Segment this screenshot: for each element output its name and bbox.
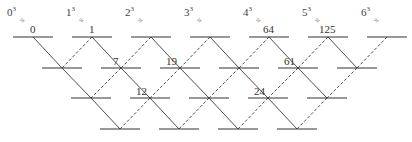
connector-dashed [268, 68, 298, 98]
cube-label: 53 [302, 5, 311, 18]
connector-dashed [238, 98, 268, 129]
node-value: 64 [263, 23, 274, 35]
cube-label: 23 [125, 5, 134, 18]
cube-label: 43 [243, 5, 252, 18]
connector-dashed [180, 37, 210, 68]
connector-dashed [297, 98, 327, 129]
cube-label: 13 [66, 5, 75, 18]
connector-dashed [239, 37, 269, 68]
connector-solid [33, 37, 62, 68]
connector-solid [150, 98, 179, 129]
connector-solid [298, 68, 327, 98]
connector-solid [91, 98, 120, 129]
node-value: 0 [30, 23, 36, 35]
node-value: 24 [254, 85, 265, 97]
connector-dashed [150, 68, 180, 98]
connector-dashed [62, 37, 92, 68]
cube-label: 03 [7, 5, 16, 18]
node-value: 7 [113, 55, 119, 67]
difference-lattice [0, 0, 412, 142]
connector-solid [180, 68, 209, 98]
connector-dashed [120, 98, 150, 129]
cube-label: 33 [184, 5, 193, 18]
connector-solid [209, 98, 238, 129]
connector-dashed [121, 37, 151, 68]
node-value: 12 [136, 85, 147, 97]
connector-solid [210, 37, 239, 68]
node-value: 1 [89, 23, 95, 35]
node-value: 19 [166, 55, 177, 67]
connector-dashed [179, 98, 209, 129]
connector-solid [268, 98, 297, 129]
node-value: 125 [319, 23, 336, 35]
connector-solid [328, 37, 357, 68]
connector-dashed [209, 68, 239, 98]
connector-solid [62, 68, 91, 98]
cube-label: 63 [361, 5, 370, 18]
connector-dashed [327, 68, 357, 98]
connector-dashed [357, 37, 387, 68]
connector-dashed [298, 37, 328, 68]
node-value: 61 [284, 55, 295, 67]
connector-dashed [91, 68, 121, 98]
